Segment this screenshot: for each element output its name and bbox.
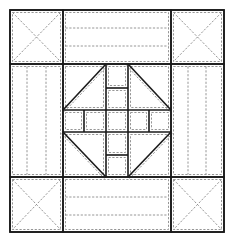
strip-top	[63, 10, 171, 64]
strip-seam-right	[174, 67, 222, 175]
center-diagonal	[63, 64, 106, 110]
diagonal-seam	[65, 66, 108, 112]
quilting-lines	[13, 13, 222, 230]
center-diagonal	[128, 64, 171, 110]
center-diagonal	[63, 132, 106, 177]
center-column-seam	[109, 67, 126, 86]
center-column-seam	[109, 135, 126, 153]
strip-left	[10, 64, 63, 177]
strip-bottom	[63, 177, 171, 232]
strip-seam-top	[66, 13, 169, 62]
center-diagonal	[128, 132, 171, 177]
center-block	[63, 64, 171, 177]
center-column-seam	[109, 91, 126, 108]
center-band-seam	[109, 113, 126, 130]
center-band-seam	[87, 113, 104, 130]
strip-seam-bottom	[66, 180, 169, 230]
strip-seam-left	[13, 67, 61, 175]
center-band-seam	[131, 113, 147, 130]
diagonal-seam	[130, 134, 173, 179]
diagonal-seam	[61, 134, 104, 179]
strip-right	[171, 64, 224, 177]
center-band-seam	[152, 113, 169, 130]
center-band-seam	[66, 113, 82, 130]
quilt-block-diagram	[0, 0, 229, 239]
diagonal-seam	[126, 66, 169, 112]
center-column-seam	[109, 158, 126, 175]
